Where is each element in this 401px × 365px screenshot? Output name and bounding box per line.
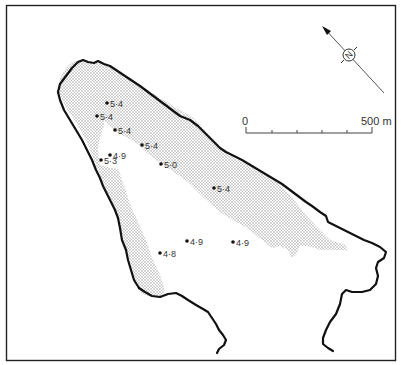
sample-point-marker [105,101,109,105]
sample-point-label: 5·4 [100,112,113,122]
sample-point-marker [159,162,163,166]
sample-point-label: 5·3 [104,156,117,166]
sample-point-marker [185,239,189,243]
sample-point-marker [212,186,216,190]
sample-point-label: 5·4 [217,184,230,194]
sample-point-label: 5·4 [118,126,131,136]
sample-point-label: 5·4 [145,141,158,151]
sample-point-marker [158,251,162,255]
sample-point-marker [113,128,117,132]
scale-end-label: 500 m [361,115,392,127]
map-canvas: N 0 500 m 5·45·45·44·95·35·45·05·44·94·9… [0,0,401,365]
sample-point-label: 4·9 [236,238,249,248]
sample-point-marker [140,143,144,147]
sample-point-marker [95,114,99,118]
sample-point-marker [231,240,235,244]
sample-point-label: 4·8 [163,249,176,259]
scale-start-label: 0 [242,115,248,127]
sample-point-label: 4·9 [190,237,203,247]
sample-point-label: 5·0 [164,160,177,170]
sample-point-marker [99,158,103,162]
sample-point-label: 5·4 [110,99,123,109]
